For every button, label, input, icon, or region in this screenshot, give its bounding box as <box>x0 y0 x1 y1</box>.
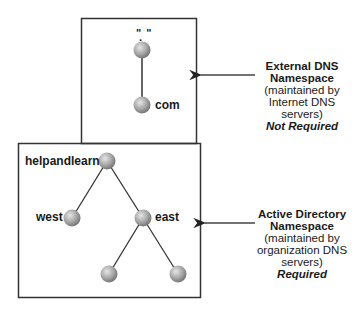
label-east: east <box>155 210 179 224</box>
node-east <box>135 210 152 227</box>
internal-title-line2: Namespace <box>240 220 364 232</box>
internal-requirement: Required <box>240 268 364 280</box>
node-west <box>64 210 81 227</box>
internal-namespace-description: Active Directory Namespace (maintained b… <box>240 208 364 280</box>
label-west: west <box>36 210 63 224</box>
node-root <box>134 42 151 59</box>
external-title-line1: External DNS <box>240 60 364 72</box>
internal-sub-line1: (maintained by <box>240 232 364 244</box>
internal-sub-line2: organization DNS <box>240 244 364 256</box>
edge-east-leaf-right <box>143 218 178 274</box>
external-title-line2: Namespace <box>240 72 364 84</box>
edge-helpandlearn-west <box>72 161 107 218</box>
node-com <box>134 97 151 114</box>
external-sub-line2: Internet DNS <box>240 96 364 108</box>
internal-sub-line3: servers) <box>240 256 364 268</box>
root-dot: . <box>139 32 142 43</box>
label-com: com <box>155 98 180 112</box>
node-east-leaf-left <box>101 266 118 283</box>
label-helpandlearn: helpandlearn <box>25 154 100 168</box>
external-sub-line3: servers) <box>240 108 364 120</box>
edge-east-leaf-left <box>109 218 143 274</box>
internal-title-line1: Active Directory <box>240 208 364 220</box>
external-namespace-description: External DNS Namespace (maintained by In… <box>240 60 364 132</box>
node-east-leaf-right <box>170 266 187 283</box>
external-sub-line1: (maintained by <box>240 84 364 96</box>
edge-helpandlearn-east <box>107 161 143 218</box>
node-helpandlearn <box>99 153 116 170</box>
external-requirement: Not Required <box>240 120 364 132</box>
